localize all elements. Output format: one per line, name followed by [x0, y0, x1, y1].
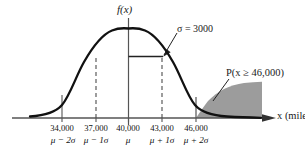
tick-label-46000: 46,000 [176, 124, 216, 133]
x-axis-arrow-icon [262, 114, 276, 122]
sigma-tick-label-plus-2sigma: μ + 2σ [176, 136, 216, 145]
probability-annotation-label: P(x ≥ 46,000) [226, 68, 284, 79]
y-axis-label: f(x) [117, 4, 132, 15]
sigma-annotation-label: σ = 3000 [177, 24, 213, 34]
normal-distribution-figure: f(x) σ = 3000 P(x ≥ 46,000) x (miles) 34… [0, 0, 305, 153]
x-axis-label: x (miles) [277, 111, 305, 122]
